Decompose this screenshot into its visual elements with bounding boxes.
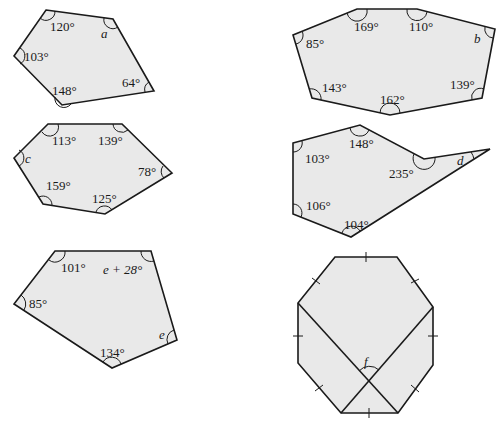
expression-angle-label: e + 28° (103, 262, 142, 277)
heptagon-b: 169° 110° 85° b 143° 162° 139° (293, 9, 495, 115)
angle-label: 159° (46, 178, 71, 193)
unknown-angle-label: d (457, 153, 464, 168)
angle-label: 148° (52, 83, 77, 98)
angle-label: 162° (380, 92, 405, 107)
unknown-angle-label: c (25, 151, 31, 166)
angle-label: 125° (92, 191, 117, 206)
unknown-angle-label: e (159, 327, 165, 342)
angle-label: 101° (61, 260, 86, 275)
angle-label: 103° (24, 49, 49, 64)
angle-label: 85° (306, 36, 324, 51)
angle-label: 106° (306, 198, 331, 213)
unknown-angle-label: a (101, 26, 108, 41)
angle-label: 139° (98, 133, 123, 148)
octagon-shape (298, 257, 433, 413)
angle-label: 103° (305, 151, 330, 166)
regular-octagon-f: f (293, 252, 438, 418)
angle-label: 139° (450, 77, 475, 92)
pentagon-a: 120° a 103° 148° 64° (14, 10, 154, 108)
angle-label: 64° (122, 75, 140, 90)
angle-label: 134° (100, 345, 125, 360)
hexagon-d-shape (293, 125, 490, 237)
angle-label: 148° (349, 136, 374, 151)
hexagon-d: 148° 103° 235° d 106° 104° (293, 125, 490, 237)
unknown-angle-label: b (474, 31, 481, 46)
hexagon-c: 113° 139° c 78° 159° 125° (14, 124, 172, 214)
angle-label: 235° (389, 166, 414, 181)
angle-label: 113° (52, 133, 76, 148)
angle-label: 169° (354, 19, 379, 34)
pentagon-e: 101° e + 28° 85° e 134° (14, 251, 177, 368)
polygon-exercise-figure: 120° a 103° 148° 64° 169° 110° 85° b 143… (0, 0, 503, 426)
angle-label: 78° (138, 164, 156, 179)
angle-label: 85° (29, 296, 47, 311)
angle-label: 143° (322, 80, 347, 95)
angle-label: 120° (50, 19, 75, 34)
angle-label: 104° (344, 217, 369, 232)
angle-label: 110° (409, 19, 433, 34)
